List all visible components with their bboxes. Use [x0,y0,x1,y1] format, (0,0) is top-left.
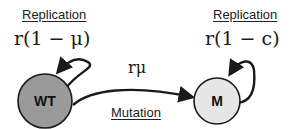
mutation-arrow [73,90,192,105]
node-m: M [194,78,240,124]
diagram-canvas: WT M [0,0,295,129]
node-wt: WT [18,74,72,128]
node-wt-label: WT [34,93,56,109]
node-m-label: M [211,93,223,109]
